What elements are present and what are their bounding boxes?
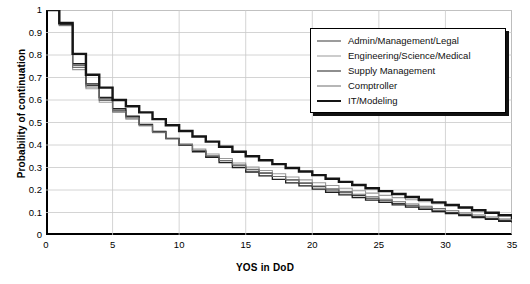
legend-item[interactable]: Admin/Management/Legal bbox=[316, 33, 499, 48]
legend-item[interactable]: Engineering/Science/Medical bbox=[316, 48, 499, 63]
legend-line-icon bbox=[316, 51, 342, 61]
legend-line-icon bbox=[316, 66, 342, 76]
x-tick-label: 10 bbox=[164, 239, 194, 250]
y-tick-label: 0.2 bbox=[8, 184, 42, 195]
y-tick-label: 0.5 bbox=[8, 117, 42, 128]
x-tick-label: 20 bbox=[297, 239, 327, 250]
y-tick-label: 0.1 bbox=[8, 207, 42, 218]
legend-line-icon bbox=[316, 81, 342, 91]
legend-item[interactable]: IT/Modeling bbox=[316, 93, 499, 108]
chart-legend: Admin/Management/LegalEngineering/Scienc… bbox=[310, 28, 506, 113]
y-tick-label: 0.4 bbox=[8, 139, 42, 150]
x-tick-label: 35 bbox=[497, 239, 527, 250]
y-tick-label: 0.8 bbox=[8, 49, 42, 60]
y-tick-label: 1 bbox=[8, 4, 42, 15]
legend-line-icon bbox=[316, 96, 342, 106]
legend-item[interactable]: Comptroller bbox=[316, 78, 499, 93]
legend-label: Comptroller bbox=[348, 80, 397, 91]
legend-label: Engineering/Science/Medical bbox=[348, 50, 471, 61]
x-tick-label: 5 bbox=[98, 239, 128, 250]
x-tick-label: 30 bbox=[430, 239, 460, 250]
y-tick-label: 0.3 bbox=[8, 162, 42, 173]
legend-line-icon bbox=[316, 36, 342, 46]
chart-screenshot: Probability of continuation YOS in DoD 0… bbox=[0, 0, 530, 284]
y-tick-label: 0.6 bbox=[8, 94, 42, 105]
y-tick-label: 0.7 bbox=[8, 72, 42, 83]
legend-label: Supply Management bbox=[348, 65, 435, 76]
legend-label: Admin/Management/Legal bbox=[348, 35, 459, 46]
x-axis-tick-labels: 05101520253035 bbox=[0, 239, 530, 255]
y-tick-label: 0.9 bbox=[8, 27, 42, 38]
x-axis-title: YOS in DoD bbox=[0, 262, 530, 273]
legend-item[interactable]: Supply Management bbox=[316, 63, 499, 78]
legend-label: IT/Modeling bbox=[348, 95, 398, 106]
x-tick-label: 0 bbox=[31, 239, 61, 250]
x-tick-label: 25 bbox=[364, 239, 394, 250]
x-tick-label: 15 bbox=[231, 239, 261, 250]
